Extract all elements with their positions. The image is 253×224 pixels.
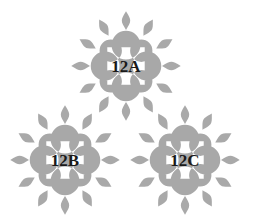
petal: [35, 111, 52, 131]
petal: [136, 130, 156, 147]
petal: [71, 62, 90, 70]
petal: [155, 188, 172, 208]
petal: [181, 105, 189, 124]
quatrefoil-core-shape: [150, 125, 221, 196]
petal: [16, 174, 36, 191]
petal: [213, 174, 233, 191]
petal: [61, 105, 69, 124]
figure-canvas: 12A 12B 12C: [0, 0, 253, 224]
petal: [154, 36, 174, 53]
petal: [122, 11, 130, 30]
quatrefoil-graphic: [105, 80, 253, 224]
petal: [162, 62, 181, 70]
petal: [79, 188, 96, 208]
petal: [61, 196, 69, 215]
petal: [35, 188, 52, 208]
petal: [155, 111, 172, 131]
petal: [140, 17, 157, 37]
petal: [79, 111, 96, 131]
petal: [213, 130, 233, 147]
petal: [16, 130, 36, 147]
petal: [77, 36, 97, 53]
petal: [10, 156, 29, 164]
petal: [199, 111, 216, 131]
petal: [96, 17, 113, 37]
petal: [130, 156, 149, 164]
quatrefoil-core-shape: [30, 125, 101, 196]
petal: [221, 156, 240, 164]
petal: [136, 174, 156, 191]
petal: [181, 196, 189, 215]
petal: [199, 188, 216, 208]
